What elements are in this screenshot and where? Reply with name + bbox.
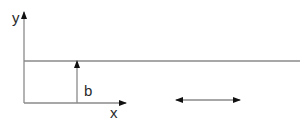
x-axis-label: x	[110, 104, 118, 121]
diagram-canvas: y b x	[0, 0, 307, 132]
height-label: b	[84, 82, 92, 99]
y-axis-label: y	[12, 9, 20, 26]
